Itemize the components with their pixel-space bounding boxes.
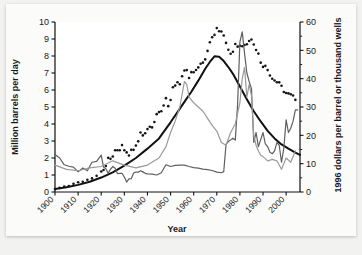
data-point [229, 52, 232, 55]
data-point [153, 121, 156, 124]
data-point [95, 175, 98, 178]
data-point [246, 43, 249, 46]
y-tick-label: 6 [44, 85, 49, 95]
y2-tick-label: 60 [306, 17, 316, 27]
data-point [204, 58, 207, 61]
data-point [130, 149, 133, 152]
data-point [271, 77, 274, 80]
data-point [144, 132, 147, 135]
y-tick-label: 10 [39, 17, 49, 27]
data-point [174, 84, 177, 87]
data-point [280, 84, 283, 87]
y2-axis-title: 1996 dollars per barrel or thousand well… [333, 17, 343, 192]
data-point [215, 27, 218, 30]
data-point [68, 185, 71, 188]
data-point [294, 99, 297, 102]
data-point [165, 97, 168, 100]
data-point [172, 86, 175, 89]
data-point [181, 75, 184, 78]
data-point [199, 63, 202, 66]
data-point [236, 45, 239, 48]
data-point [72, 183, 75, 186]
data-point [135, 144, 138, 147]
data-point [278, 81, 281, 84]
data-point [220, 30, 223, 33]
x-tick-label: 1910 [58, 194, 79, 215]
data-point [185, 69, 188, 72]
x-tick-label: 1900 [35, 194, 56, 215]
y-tick-label: 7 [44, 68, 49, 78]
data-point [255, 49, 258, 52]
x-tick-label: 1930 [104, 194, 125, 215]
y-tick-label: 3 [44, 136, 49, 146]
data-point [63, 185, 66, 188]
data-point [158, 111, 161, 114]
data-point [146, 128, 149, 131]
data-point [111, 155, 114, 158]
data-point [77, 181, 80, 184]
y2-tick-label: 40 [306, 74, 316, 84]
data-point [137, 140, 140, 143]
x-tick-label: 1920 [81, 194, 102, 215]
data-point [162, 104, 165, 107]
data-point [218, 30, 221, 33]
x-tick-label: 1940 [127, 194, 148, 215]
y-tick-label: 4 [44, 119, 49, 129]
data-point [197, 66, 200, 69]
data-point [209, 41, 212, 44]
data-point [248, 40, 251, 43]
data-point [283, 91, 286, 94]
x-tick-label: 1970 [197, 194, 218, 215]
data-point [86, 178, 89, 181]
data-point [250, 38, 253, 41]
figure-container: 012345678910 0102030405060 1900191019201… [0, 0, 362, 255]
data-point [264, 65, 267, 68]
y2-tick-label: 20 [306, 131, 316, 141]
y2-axis-ticks: 0102030405060 [300, 17, 316, 197]
data-point [232, 50, 235, 53]
data-point [192, 71, 195, 74]
data-point [252, 43, 255, 46]
data-point [58, 187, 61, 190]
data-point [151, 126, 154, 129]
data-point [160, 110, 163, 113]
data-point [195, 69, 198, 72]
data-point [123, 149, 126, 152]
y-axis-ticks: 012345678910 [39, 17, 55, 197]
data-point [213, 34, 216, 37]
data-point [142, 134, 145, 137]
data-point [292, 94, 295, 97]
y-tick-label: 5 [44, 102, 49, 112]
data-point [179, 83, 182, 86]
data-point [148, 125, 151, 128]
data-point [109, 158, 112, 161]
x-tick-label: 1950 [151, 194, 172, 215]
plot-frame [55, 22, 300, 192]
data-point [167, 105, 170, 108]
plot-background [55, 22, 300, 192]
data-point [116, 149, 119, 152]
data-point [276, 81, 279, 84]
data-point [234, 43, 237, 46]
data-point [114, 149, 117, 152]
data-point [125, 151, 128, 154]
data-point [266, 69, 269, 72]
data-point [102, 169, 105, 172]
data-point [262, 66, 265, 69]
data-point [118, 149, 121, 152]
y2-tick-label: 50 [306, 46, 316, 56]
data-point [100, 170, 103, 173]
data-point [289, 93, 292, 96]
data-point [227, 48, 230, 51]
y2-tick-label: 10 [306, 159, 316, 169]
data-point [211, 36, 214, 39]
data-point [81, 181, 84, 184]
data-point [269, 74, 272, 77]
x-axis-title: Year [167, 224, 187, 234]
data-point [169, 99, 172, 102]
data-point [155, 113, 158, 116]
data-point [206, 50, 209, 53]
x-axis-ticks: 1900191019201930194019501960197019801990… [35, 192, 287, 215]
data-point [285, 92, 288, 95]
y-tick-label: 1 [44, 170, 49, 180]
